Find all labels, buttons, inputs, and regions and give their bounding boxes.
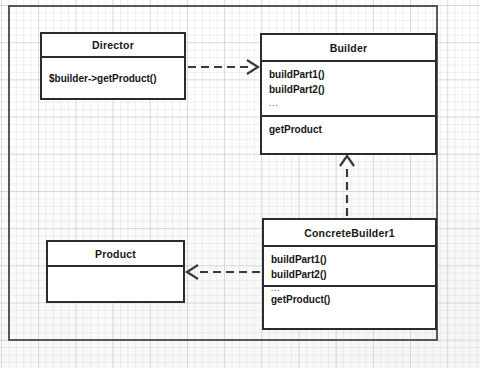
compartment-concrete-builder-1-getter: getProduct()	[264, 285, 435, 328]
compartment-builder-methods: buildPart1() buildPart2() ...	[262, 60, 435, 115]
uml-class-product[interactable]: Product	[46, 240, 185, 303]
class-name-director: Director	[42, 34, 184, 56]
member-row: getProduct()	[271, 292, 428, 307]
member-row: $builder->getProduct()	[49, 71, 157, 86]
uml-class-builder[interactable]: Builder buildPart1() buildPart2() ... ge…	[260, 33, 437, 155]
diagram-canvas: Director $builder->getProduct() Builder …	[0, 0, 480, 368]
compartment-product-body	[48, 265, 183, 301]
class-name-builder: Builder	[262, 35, 435, 60]
member-row: buildPart2()	[269, 82, 428, 97]
member-row-ellipsis: ...	[269, 97, 428, 110]
class-name-product: Product	[48, 242, 183, 265]
compartment-director-operations: $builder->getProduct()	[42, 56, 184, 98]
compartment-concrete-builder-1-methods: buildPart1() buildPart2() ...	[264, 245, 435, 285]
member-row: getProduct	[269, 122, 428, 137]
uml-class-concrete-builder-1[interactable]: ConcreteBuilder1 buildPart1() buildPart2…	[262, 218, 437, 330]
member-row: buildPart1()	[271, 252, 428, 267]
compartment-builder-getter: getProduct	[262, 115, 435, 153]
member-row: buildPart1()	[269, 67, 428, 82]
member-row: buildPart2()	[271, 267, 428, 282]
class-name-concrete-builder-1: ConcreteBuilder1	[264, 220, 435, 245]
uml-class-director[interactable]: Director $builder->getProduct()	[40, 32, 186, 100]
